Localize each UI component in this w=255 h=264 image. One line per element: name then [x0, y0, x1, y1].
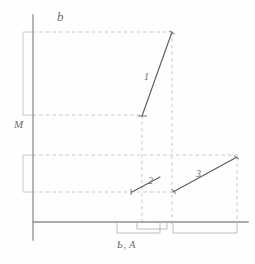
axis-label-b: b	[57, 10, 64, 23]
segment-label-3: 3	[196, 169, 201, 179]
bottom-bracket-right	[173, 222, 237, 233]
bottom-bracket-inner	[137, 222, 167, 229]
segment-line-2	[132, 177, 160, 192]
bottom-brackets	[117, 222, 237, 233]
left-brackets	[23, 32, 33, 192]
dashed-guides	[33, 32, 238, 225]
axis-label-m: M	[14, 119, 23, 130]
segment-label-1: 1	[144, 72, 149, 82]
diagram-svg	[0, 0, 255, 264]
left-lower-bracket	[23, 155, 33, 192]
bottom-dimension-label: Ƅ, A	[117, 240, 136, 250]
data-segments	[132, 32, 237, 192]
bottom-bracket-small	[117, 222, 160, 233]
left-upper-bracket	[23, 32, 33, 115]
segment-label-2: 2	[148, 176, 153, 186]
segment-line-3	[173, 157, 237, 192]
axes	[33, 15, 248, 240]
diagram-canvas: b M 1 2 3 Ƅ, A	[0, 0, 255, 264]
tick-segment-3-base	[172, 189, 176, 194]
segment-origin-ticks	[131, 31, 239, 195]
